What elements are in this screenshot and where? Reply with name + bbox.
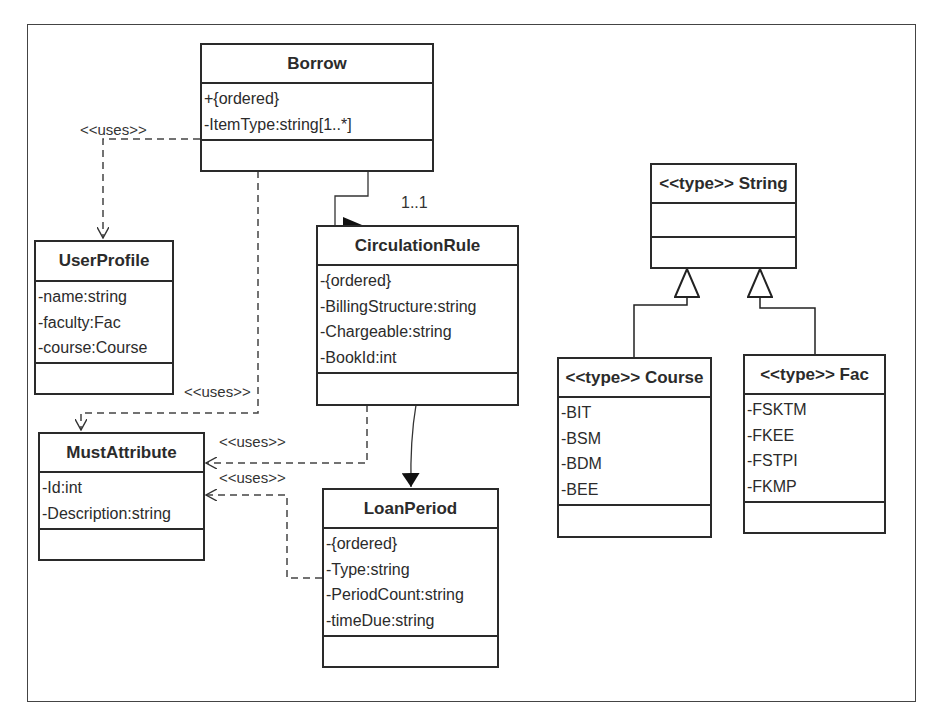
attribute: -Chargeable:string [320, 319, 517, 345]
class-course-type[interactable]: <<type>> Course -BIT -BSM -BDM -BEE [557, 357, 712, 538]
attribute: -Description:string [42, 501, 203, 527]
attribute: -ItemType:string[1..*] [204, 112, 432, 138]
uses-label-userprofile: <<uses>> [80, 121, 147, 138]
class-name: <<type>> String [652, 165, 795, 204]
class-name: UserProfile [36, 242, 172, 282]
attribute: -FKMP [747, 474, 884, 500]
uses-label-loanperiod: <<uses>> [219, 469, 286, 486]
attribute: -BEE [561, 477, 710, 503]
attribute: -{ordered} [326, 531, 497, 557]
class-userprofile[interactable]: UserProfile -name:string -faculty:Fac -c… [34, 240, 174, 395]
class-name: MustAttribute [40, 434, 203, 473]
attribute: -BDM [561, 451, 710, 477]
attribute: -FSKTM [747, 397, 884, 423]
class-name: LoanPeriod [324, 490, 497, 529]
attribute: -name:string [38, 284, 172, 310]
attributes-compartment: -Id:int -Description:string [40, 473, 203, 530]
attribute: -BillingStructure:string [320, 294, 517, 320]
attributes-compartment: +{ordered} -ItemType:string[1..*] [202, 84, 432, 141]
uses-label-circulationrule: <<uses>> [219, 433, 286, 450]
attributes-compartment: -name:string -faculty:Fac -course:Course [36, 282, 172, 364]
association-borrow-circulationrule [335, 171, 368, 225]
attribute: -Type:string [326, 557, 497, 583]
generalization-course-string [634, 269, 687, 357]
class-name: Borrow [202, 45, 432, 84]
attribute: -Id:int [42, 475, 203, 501]
association-circulationrule-loanperiod [411, 405, 416, 487]
attribute: -BIT [561, 400, 710, 426]
attribute: -FSTPI [747, 448, 884, 474]
class-name: <<type>> Course [559, 359, 710, 398]
class-mustattribute[interactable]: MustAttribute -Id:int -Description:strin… [38, 432, 205, 561]
class-name: CirculationRule [318, 227, 517, 266]
attribute: -faculty:Fac [38, 310, 172, 336]
attribute: -PeriodCount:string [326, 582, 497, 608]
dependency-borrow-userprofile [103, 139, 200, 238]
class-loanperiod[interactable]: LoanPeriod -{ordered} -Type:string -Peri… [322, 488, 499, 668]
attribute: -FKEE [747, 423, 884, 449]
class-name: <<type>> Fac [745, 356, 884, 395]
dependency-loanperiod-mustattribute [206, 495, 322, 578]
attributes-compartment: -{ordered} -BillingStructure:string -Cha… [318, 266, 517, 374]
generalization-fac-string [760, 269, 815, 354]
attribute: +{ordered} [204, 86, 432, 112]
attributes-compartment: -FSKTM -FKEE -FSTPI -FKMP [745, 395, 884, 503]
attribute: -BSM [561, 426, 710, 452]
attribute: -{ordered} [320, 268, 517, 294]
attributes-compartment [652, 204, 795, 238]
attribute: -timeDue:string [326, 608, 497, 634]
multiplicity-label: 1..1 [401, 194, 428, 212]
class-borrow[interactable]: Borrow +{ordered} -ItemType:string[1..*] [200, 43, 434, 172]
class-string-type[interactable]: <<type>> String [650, 163, 797, 269]
attributes-compartment: -BIT -BSM -BDM -BEE [559, 398, 710, 506]
attribute: -BookId:int [320, 345, 517, 371]
class-fac-type[interactable]: <<type>> Fac -FSKTM -FKEE -FSTPI -FKMP [743, 354, 886, 534]
attribute: -course:Course [38, 335, 172, 361]
attributes-compartment: -{ordered} -Type:string -PeriodCount:str… [324, 529, 497, 637]
class-circulationrule[interactable]: CirculationRule -{ordered} -BillingStruc… [316, 225, 519, 406]
uses-label-borrow-mustattribute: <<uses>> [184, 383, 251, 400]
